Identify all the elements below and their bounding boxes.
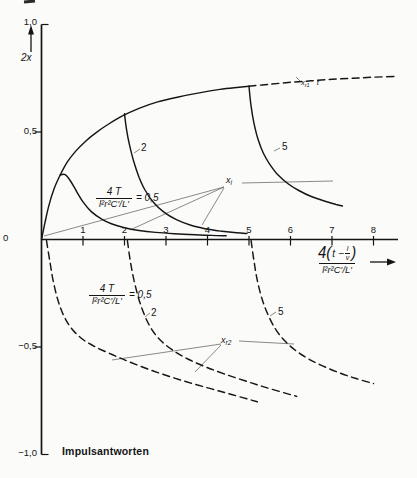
- upper-eq-fraction: 4 T l²r²C′/L′: [96, 186, 132, 209]
- pointer-line: [270, 312, 276, 316]
- y-tick-label-0_5: 0,5: [8, 126, 37, 136]
- x-tick-label-8: 8: [366, 225, 382, 235]
- xi-label: xi: [226, 176, 232, 186]
- y-tick-label-neg1_0: −1,0: [8, 448, 37, 458]
- x-tick-label-3: 3: [158, 225, 174, 235]
- x-tick-label-6: 6: [283, 225, 299, 235]
- pointer-line: [202, 188, 224, 225]
- curve-label-upper-2: 2: [141, 142, 147, 153]
- xr2-label: xr2: [221, 336, 231, 346]
- y-tick-label-0: 0: [3, 233, 8, 243]
- upper-eq-value: = 0,5: [136, 192, 159, 203]
- x-tick-label-4: 4: [200, 225, 216, 235]
- series-rise-envelope: [42, 86, 250, 239]
- l-over-v-fraction: l v: [345, 245, 351, 261]
- series-rise-envelope-continuation-xr1: [249, 76, 396, 86]
- upper-parameter-equation: 4 T l²r²C′/L′ = 0,5: [96, 186, 158, 209]
- x-tick-label-5: 5: [241, 225, 257, 235]
- y-tick-label-neg0_5: −0,5: [8, 341, 37, 351]
- lower-parameter-equation: 4 T l²r²C′/L′ = 0,5: [89, 283, 151, 306]
- series-xi-T5: [249, 86, 342, 206]
- y-axis-variable-label: 2x: [21, 52, 32, 63]
- x-tick-label-1: 1: [75, 225, 91, 235]
- impulse-response-plot: [0, 0, 417, 478]
- pointer-line: [274, 148, 280, 151]
- lower-eq-fraction: 4 T l²r²C′/L′: [89, 283, 125, 306]
- x-tick-label-2: 2: [117, 225, 133, 235]
- series-xi-T2: [125, 114, 247, 234]
- pointer-line: [145, 313, 150, 317]
- curve-label-upper-5: 5: [282, 141, 288, 152]
- series-xr2-T2: [127, 241, 296, 397]
- x-axis-title: 4( t − l v ) l²r²C′/L′: [316, 245, 358, 275]
- xr1-label: xr1 t: [301, 79, 319, 88]
- open-paren: 4(: [318, 244, 331, 262]
- x-axis-title-fraction: 4( t − l v ) l²r²C′/L′: [316, 245, 358, 275]
- t-minus: t −: [332, 248, 343, 259]
- curve-label-lower-5: 5: [278, 306, 284, 317]
- close-paren: ): [351, 244, 356, 262]
- lower-eq-value: = 0,5: [129, 289, 152, 300]
- x-axis-title-numerator: 4( t − l v ): [316, 245, 358, 263]
- curve-label-lower-2: 2: [151, 307, 157, 318]
- figure-page: 1,0 2x 0,5 0 −0,5 −1,0 1 2 3 4 5 6 7 8 4…: [0, 0, 417, 478]
- x-tick-label-7: 7: [324, 225, 340, 235]
- x-axis-title-denominator: l²r²C′/L′: [319, 263, 355, 275]
- x-axis-arrow-icon: [387, 259, 396, 266]
- y-tick-label-1_0: 1,0: [8, 17, 37, 27]
- figure-caption: Impulsantworten: [62, 446, 149, 458]
- series-xr2-T0.5: [47, 241, 258, 402]
- pointer-line: [134, 149, 140, 153]
